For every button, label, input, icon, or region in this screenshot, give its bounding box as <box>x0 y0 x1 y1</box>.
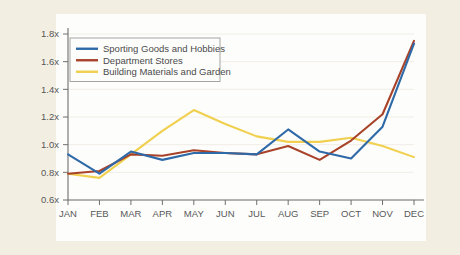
x-tick-label: APR <box>153 208 173 219</box>
x-tick-label: JUL <box>248 208 265 219</box>
y-tick-label: 1.6x <box>41 56 59 67</box>
y-axis-ticks: 0.6x0.8x1.0x1.2x1.4x1.6x1.8x <box>41 28 68 205</box>
chart-figure: 0.6x0.8x1.0x1.2x1.4x1.6x1.8x JANFEBMARAP… <box>0 0 460 255</box>
x-tick-label: JAN <box>59 208 77 219</box>
y-tick-label: 0.6x <box>41 194 59 205</box>
chart-legend: Sporting Goods and HobbiesDepartment Sto… <box>70 38 231 82</box>
y-tick-label: 0.8x <box>41 167 59 178</box>
x-tick-label: SEP <box>310 208 329 219</box>
y-tick-label: 1.0x <box>41 139 59 150</box>
line-chart: 0.6x0.8x1.0x1.2x1.4x1.6x1.8x JANFEBMARAP… <box>0 0 460 255</box>
x-tick-label: JUN <box>216 208 235 219</box>
legend-label-2: Building Materials and Garden <box>103 66 231 77</box>
y-tick-label: 1.8x <box>41 28 59 39</box>
y-tick-label: 1.2x <box>41 111 59 122</box>
x-tick-label: DEC <box>404 208 424 219</box>
x-axis-ticks: JANFEBMARAPRMAYJUNJULAUGSEPOCTNOVDEC <box>59 200 424 219</box>
x-tick-label: NOV <box>372 208 393 219</box>
x-tick-label: MAR <box>120 208 141 219</box>
legend-label-0: Sporting Goods and Hobbies <box>103 43 225 54</box>
legend-label-1: Department Stores <box>103 55 183 66</box>
x-tick-label: OCT <box>341 208 361 219</box>
series-line-2 <box>68 110 414 178</box>
x-tick-label: AUG <box>278 208 299 219</box>
x-tick-label: FEB <box>90 208 108 219</box>
x-tick-label: MAY <box>184 208 205 219</box>
y-tick-label: 1.4x <box>41 84 59 95</box>
